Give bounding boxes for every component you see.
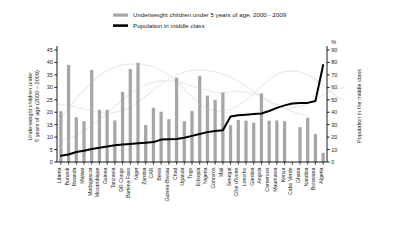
svg-text:45: 45 — [47, 47, 53, 53]
x-axis-label: Namibia — [303, 167, 309, 186]
x-axis-label: Ethiopia — [195, 167, 201, 186]
bar — [306, 118, 309, 162]
svg-text:40: 40 — [47, 59, 53, 65]
x-axis-label: DR Congo — [118, 167, 124, 191]
bar — [252, 123, 255, 162]
bar — [152, 108, 155, 162]
x-axis-label: Nigeria — [202, 167, 208, 184]
bar — [275, 120, 278, 162]
bar — [136, 63, 139, 162]
x-axis-label: Guinea — [102, 167, 108, 184]
bar — [183, 121, 186, 162]
bar — [268, 121, 271, 162]
svg-text:5 years of age (2000 – 2009): 5 years of age (2000 – 2009) — [34, 70, 40, 142]
x-axis-label: Uganda — [179, 167, 185, 185]
bar — [175, 78, 178, 162]
svg-text:25: 25 — [47, 97, 53, 103]
svg-text:Population in middle class: Population in middle class — [133, 22, 205, 29]
x-axis-label: Guinea-Bissau — [164, 167, 170, 201]
bar — [160, 112, 163, 162]
bar — [75, 117, 78, 162]
x-axis-label: Angola — [256, 167, 262, 183]
svg-text:60: 60 — [331, 84, 337, 90]
svg-text:50: 50 — [331, 97, 337, 103]
x-axis-label: Benin — [156, 167, 162, 180]
bar — [82, 121, 85, 162]
x-axis-label: Comoros — [210, 167, 216, 188]
bar — [206, 96, 209, 162]
x-axis-label: Kenya — [280, 167, 286, 182]
bar — [298, 127, 301, 162]
bar — [167, 119, 170, 162]
bar — [198, 76, 201, 162]
svg-text:Population in the middle class: Population in the middle class — [356, 69, 362, 143]
x-axis-label: Mali — [218, 168, 224, 178]
svg-text:70: 70 — [331, 72, 337, 78]
svg-text:80: 80 — [331, 59, 337, 65]
svg-text:5: 5 — [50, 147, 53, 153]
svg-text:10: 10 — [47, 134, 53, 140]
bar — [129, 69, 132, 162]
bar — [322, 153, 325, 162]
svg-text:20: 20 — [331, 134, 337, 140]
x-axis-label: CAR — [148, 167, 154, 178]
svg-text:35: 35 — [47, 72, 53, 78]
bar — [314, 134, 317, 162]
svg-text:20: 20 — [47, 109, 53, 115]
x-axis-label: Gambia — [249, 167, 255, 185]
x-axis-label: Senegal — [226, 168, 232, 187]
bar — [106, 110, 109, 162]
bar — [237, 120, 240, 162]
bar — [67, 65, 70, 162]
x-axis-label: Mozambique — [94, 167, 100, 197]
svg-text:90: 90 — [331, 47, 337, 53]
bar — [59, 111, 62, 162]
x-axis-label: Zambia — [141, 167, 147, 184]
x-axis-label: Cameroon — [264, 167, 270, 191]
x-axis-label: Malawi — [79, 168, 85, 184]
svg-text:30: 30 — [331, 122, 337, 128]
bar — [260, 93, 263, 162]
svg-text:Underweight children under: Underweight children under — [27, 72, 33, 141]
bar — [229, 125, 232, 162]
x-axis-label: Ghana — [295, 167, 301, 183]
svg-text:%: % — [331, 39, 336, 45]
bar — [244, 121, 247, 162]
x-axis-label: Togo — [187, 167, 193, 178]
bar — [113, 120, 116, 162]
x-axis-label: Liberia — [56, 167, 62, 183]
svg-text:40: 40 — [331, 109, 337, 115]
x-axis-label: Rwanda — [71, 167, 77, 186]
x-axis-label: Tanzania — [110, 167, 116, 188]
x-axis-label: Lesotho — [241, 167, 247, 186]
x-axis-label: Mauritania — [272, 167, 278, 191]
svg-text:0: 0 — [50, 159, 53, 165]
svg-text:30: 30 — [47, 84, 53, 90]
x-axis-label: Cabo Verde — [287, 167, 293, 195]
chart-root: Underweight children under 5 years of ag… — [0, 0, 396, 226]
x-axis-label: Chad — [172, 167, 178, 180]
svg-text:Underweight children under 5 y: Underweight children under 5 years of ag… — [133, 11, 287, 18]
bar — [121, 92, 124, 162]
x-axis-label: Madagascar — [87, 167, 93, 196]
bar — [98, 110, 101, 162]
svg-text:10: 10 — [331, 147, 337, 153]
x-axis-label: Algeria — [318, 167, 324, 183]
x-axis-label: Burundi — [64, 168, 70, 186]
x-axis-label: Côte d'Ivoire — [233, 167, 239, 196]
x-axis-label: Botswana — [310, 167, 316, 190]
svg-text:15: 15 — [47, 122, 53, 128]
x-axis-label: Niger — [133, 167, 139, 180]
bar — [283, 121, 286, 162]
svg-text:0: 0 — [331, 159, 334, 165]
x-axis-label: Burkina Faso — [125, 167, 131, 198]
